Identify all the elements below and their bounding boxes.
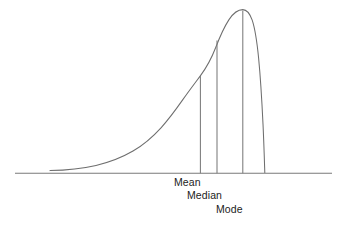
mode-label: Mode: [216, 203, 243, 215]
median-label: Median: [187, 189, 222, 201]
skewed-distribution-chart: [0, 0, 348, 238]
distribution-figure: Mean Median Mode: [0, 0, 348, 238]
mean-label: Mean: [174, 176, 201, 188]
density-curve: [50, 10, 265, 173]
